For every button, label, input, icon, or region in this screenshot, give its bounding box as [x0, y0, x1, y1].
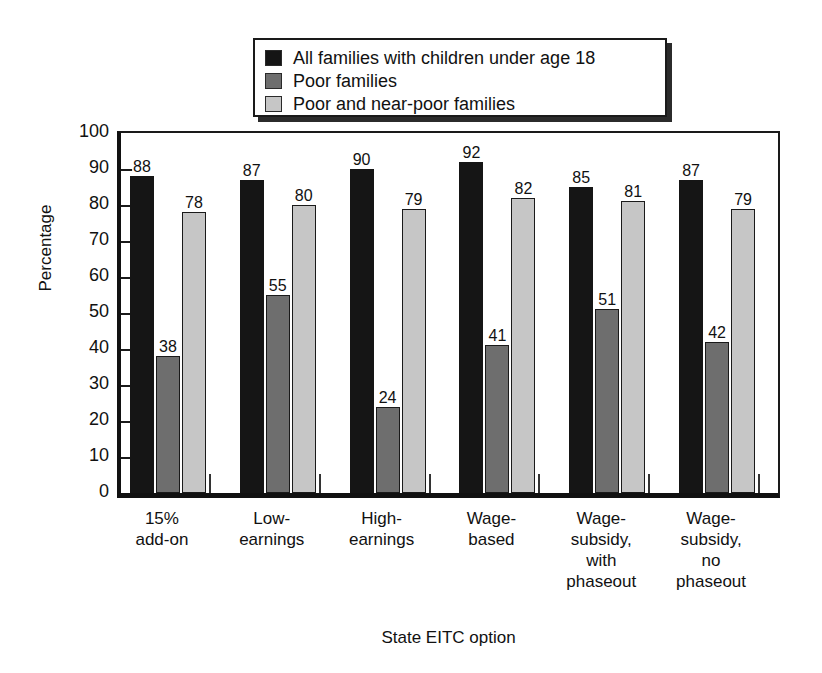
bar-value-label: 24 — [378, 390, 398, 406]
y-axis-tick-label: 50 — [63, 302, 109, 320]
x-axis-category-line: no — [656, 550, 766, 571]
group-separator-tick — [209, 474, 211, 493]
legend-swatch-poor-families — [265, 73, 282, 89]
bar-value-label: 51 — [597, 292, 617, 308]
y-axis-tick-label: 70 — [63, 230, 109, 248]
x-axis-category-line: Low- — [217, 508, 327, 529]
x-axis-category-line: subsidy, — [656, 529, 766, 550]
bar-value-label: 92 — [462, 145, 482, 161]
bar: 55 — [266, 295, 290, 493]
x-axis-category-line: earnings — [217, 529, 327, 550]
group-separator-tick — [758, 474, 760, 493]
x-axis-category-line: 15% — [107, 508, 217, 529]
bar: 80 — [292, 205, 316, 493]
chart-legend: All families with children under age 18 … — [253, 38, 667, 117]
bar: 81 — [621, 201, 645, 493]
group-separator-tick — [429, 474, 431, 493]
x-axis-category-line: add-on — [107, 529, 217, 550]
y-axis-tick-label: 60 — [63, 266, 109, 284]
group-separator-tick — [648, 474, 650, 493]
bar-value-label: 87 — [681, 163, 701, 179]
x-axis-category-line: subsidy, — [546, 529, 656, 550]
x-axis-category-label: 15%add-on — [107, 508, 217, 550]
bar-value-label: 88 — [132, 159, 152, 175]
y-axis-tick-label: 80 — [63, 194, 109, 212]
x-axis-category-line: with — [546, 550, 656, 571]
bar-value-label: 38 — [158, 339, 178, 355]
bar-value-label: 90 — [352, 152, 372, 168]
bar-value-label: 87 — [242, 163, 262, 179]
legend-label-1: Poor families — [293, 72, 397, 90]
legend-item-0: All families with children under age 18 — [265, 46, 665, 69]
bar: 38 — [156, 356, 180, 493]
bar: 79 — [402, 209, 426, 493]
bar: 88 — [130, 176, 154, 493]
y-axis-tick-label: 100 — [63, 122, 109, 140]
x-axis-category-labels: 15%add-onLow-earningsHigh-earningsWage-b… — [117, 508, 780, 608]
y-axis-tick-label: 0 — [63, 482, 109, 500]
bar: 90 — [350, 169, 374, 493]
x-axis-category-label: High-earnings — [327, 508, 437, 550]
legend-label-0: All families with children under age 18 — [293, 49, 595, 67]
bar: 85 — [569, 187, 593, 493]
bar: 42 — [705, 342, 729, 493]
bar: 92 — [459, 162, 483, 493]
plot-inner: 883878875580902479924182855181874279 — [121, 133, 778, 493]
bar: 41 — [485, 345, 509, 493]
bar: 87 — [240, 180, 264, 493]
legend-item-1: Poor families — [265, 69, 665, 92]
x-axis-category-label: Wage-subsidy,withphaseout — [546, 508, 656, 592]
y-axis-tick-label: 10 — [63, 446, 109, 464]
bar: 24 — [376, 407, 400, 493]
bar-value-label: 78 — [184, 195, 204, 211]
bar-value-label: 55 — [268, 278, 288, 294]
y-axis-title: Percentage — [36, 168, 56, 328]
bar-value-label: 79 — [404, 192, 424, 208]
y-axis-tick-label: 40 — [63, 338, 109, 356]
y-axis-tick-label: 30 — [63, 374, 109, 392]
bar-value-label: 79 — [733, 192, 753, 208]
group-separator-tick — [538, 474, 540, 493]
bar-value-label: 80 — [294, 188, 314, 204]
y-axis-tick-labels: 0102030405060708090100 — [57, 131, 109, 498]
legend-swatch-all-families — [265, 50, 282, 66]
bar: 87 — [679, 180, 703, 493]
y-axis-tick-label: 20 — [63, 410, 109, 428]
x-axis-category-line: phaseout — [546, 571, 656, 592]
x-axis-category-label: Wage-subsidy,nophaseout — [656, 508, 766, 592]
x-axis-category-label: Low-earnings — [217, 508, 327, 550]
x-axis-category-line: based — [437, 529, 547, 550]
x-axis-title: State EITC option — [117, 628, 780, 648]
bar: 82 — [511, 198, 535, 493]
plot-area: 883878875580902479924182855181874279 — [117, 131, 780, 498]
bar-value-label: 81 — [623, 184, 643, 200]
x-axis-category-line: phaseout — [656, 571, 766, 592]
bar-value-label: 41 — [488, 328, 508, 344]
group-separator-tick — [319, 474, 321, 493]
legend-label-2: Poor and near-poor families — [293, 95, 515, 113]
chart-figure: All families with children under age 18 … — [0, 0, 822, 673]
legend-item-2: Poor and near-poor families — [265, 92, 665, 115]
bar-value-label: 82 — [514, 181, 534, 197]
x-axis-category-line: Wage- — [656, 508, 766, 529]
x-axis-category-line: earnings — [327, 529, 437, 550]
x-axis-category-line: High- — [327, 508, 437, 529]
x-axis-category-label: Wage-based — [437, 508, 547, 550]
x-axis-category-line: Wage- — [546, 508, 656, 529]
x-axis-category-line: Wage- — [437, 508, 547, 529]
bar: 51 — [595, 309, 619, 493]
bar-value-label: 42 — [707, 325, 727, 341]
bar-value-label: 85 — [571, 170, 591, 186]
bar: 79 — [731, 209, 755, 493]
y-axis-tick-label: 90 — [63, 158, 109, 176]
legend-swatch-poor-near-poor-families — [265, 96, 282, 112]
bar: 78 — [182, 212, 206, 493]
